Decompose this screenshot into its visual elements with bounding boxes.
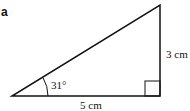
height-label: 3 cm xyxy=(166,48,188,60)
right-angle-marker xyxy=(145,81,160,96)
base-label: 5 cm xyxy=(80,99,102,111)
angle-arc xyxy=(43,78,48,97)
triangle xyxy=(12,5,160,96)
part-label: a xyxy=(1,5,8,19)
angle-label: 31° xyxy=(51,79,66,91)
right-triangle-diagram: a 31° 5 cm 3 cm xyxy=(0,0,190,111)
